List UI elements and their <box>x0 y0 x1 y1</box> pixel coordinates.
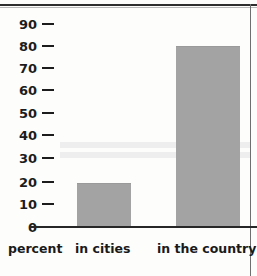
y-tick-60: 60 <box>8 83 54 97</box>
bar-in-the-country <box>176 46 240 228</box>
y-tick-dash <box>42 112 54 114</box>
y-tick-10: 10 <box>8 197 54 211</box>
bar-chart-figure: 90 80 70 60 50 40 30 20 <box>0 0 257 276</box>
y-tick-label: 30 <box>19 152 37 165</box>
y-tick-dash <box>42 203 54 205</box>
y-tick-label: 20 <box>19 176 37 189</box>
y-tick-40: 40 <box>8 128 54 142</box>
y-tick-label: 90 <box>19 18 37 31</box>
x-label-in-cities: in cities <box>75 243 130 256</box>
y-tick-dash <box>42 23 54 25</box>
y-tick-20: 20 <box>8 175 54 189</box>
plot-area: 90 80 70 60 50 40 30 20 <box>0 0 257 276</box>
y-tick-dash <box>42 181 54 183</box>
x-axis-baseline <box>29 226 257 228</box>
y-tick-dash <box>42 67 54 69</box>
y-tick-70: 70 <box>8 61 54 75</box>
y-tick-90: 90 <box>8 17 54 31</box>
axis-unit-label: percent <box>8 243 62 256</box>
x-label-in-the-country: in the country <box>157 243 256 256</box>
y-tick-label: 40 <box>19 129 37 142</box>
y-tick-dash <box>42 157 54 159</box>
y-tick-dash <box>42 45 54 47</box>
y-tick-50: 50 <box>8 106 54 120</box>
y-tick-label: 60 <box>19 84 37 97</box>
y-tick-label: 10 <box>19 198 37 211</box>
y-tick-label: 70 <box>19 62 37 75</box>
y-tick-dash <box>42 89 54 91</box>
y-tick-label: 50 <box>19 107 37 120</box>
y-tick-30: 30 <box>8 151 54 165</box>
y-tick-80: 80 <box>8 39 54 53</box>
bar-in-cities <box>77 183 131 228</box>
y-tick-dash <box>42 134 54 136</box>
y-tick-label: 80 <box>19 40 37 53</box>
